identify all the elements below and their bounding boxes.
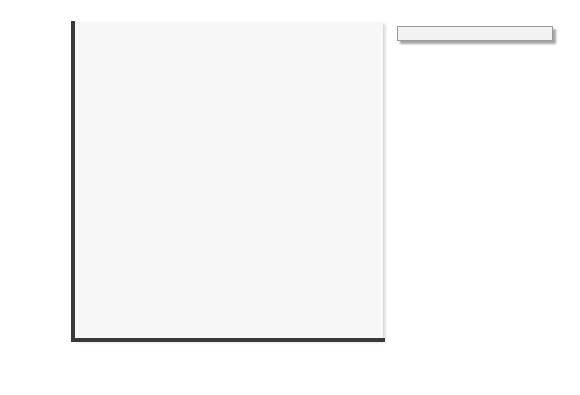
y-axis-line xyxy=(71,21,75,341)
plot-area xyxy=(75,22,383,340)
y-axis-ticks xyxy=(30,0,70,395)
x-axis-line xyxy=(71,338,385,342)
annotation-callout xyxy=(397,26,553,41)
gridlines xyxy=(75,22,383,340)
chart-figure xyxy=(0,0,580,395)
